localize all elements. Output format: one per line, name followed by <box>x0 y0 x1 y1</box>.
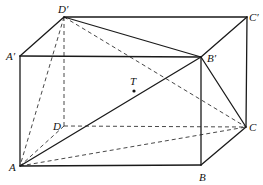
edge-b1-c1 <box>201 17 247 57</box>
edge-a-c <box>20 127 246 166</box>
edge-d1-a1 <box>20 17 64 56</box>
edge-c-c1 <box>246 17 247 127</box>
vertex-label-d: D <box>52 120 61 132</box>
point-t-label: T <box>130 75 137 87</box>
edge-a1-b1 <box>20 56 201 57</box>
vertex-label-a: A <box>8 161 16 173</box>
vertex-label-c: C <box>249 121 257 133</box>
edge-a-b <box>20 165 201 166</box>
edge-b-c <box>201 127 246 165</box>
vertex-label-b-prime: B′ <box>207 52 217 64</box>
edge-d-c <box>64 126 246 127</box>
vertex-label-b: B <box>199 171 206 183</box>
vertex-labels: A B C D A′ B′ C′ D′ <box>5 3 259 183</box>
points: T <box>130 75 137 93</box>
cuboid-diagram: T A B C D A′ B′ C′ D′ <box>0 0 263 185</box>
vertex-label-a-prime: A′ <box>5 50 16 62</box>
point-t-dot <box>132 89 135 92</box>
edge-b1-c <box>201 57 246 127</box>
vertex-label-c-prime: C′ <box>249 11 259 23</box>
edge-d1-b1 <box>64 17 201 57</box>
vertex-label-d-prime: D′ <box>57 3 69 15</box>
edge-d1-c <box>64 17 246 127</box>
